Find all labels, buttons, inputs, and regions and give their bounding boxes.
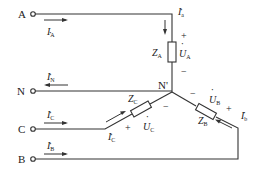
polarity-uc-minus: − [163, 101, 169, 112]
polarity-ub-minus: − [190, 88, 196, 99]
label-zc: ZC [128, 93, 138, 105]
polarity-ua-minus: − [181, 66, 187, 77]
polarity-ub-plus: + [226, 103, 232, 114]
label-ib: · IB [46, 138, 54, 152]
polarity-uc-plus: + [125, 122, 131, 133]
label-ia-phase: · Ia [177, 4, 184, 18]
label-ic-phase: · IC [107, 129, 115, 143]
terminal-label-a: A [18, 8, 26, 20]
label-ia: · IA [46, 26, 55, 38]
label-ub: · UB [209, 84, 220, 106]
arrow-ia-phase-icon [163, 20, 167, 35]
impedance-za [168, 42, 176, 62]
terminal-label-b: B [18, 153, 25, 165]
neutral-node-label: N' [158, 79, 168, 91]
terminal-a [31, 12, 36, 17]
arrow-in-icon [44, 83, 68, 87]
terminal-label-n: N [17, 85, 25, 97]
label-in: · IN [46, 69, 55, 83]
svg-text:IC: IC [107, 131, 115, 143]
label-uc: · UC [143, 111, 154, 133]
polarity-ua-plus: + [181, 30, 187, 41]
arrow-ic-phase-icon [106, 111, 126, 122]
terminal-label-c: C [18, 123, 25, 135]
label-zb: ZB [198, 115, 208, 127]
svg-text:UC: UC [143, 121, 154, 133]
svg-text:UB: UB [209, 94, 220, 106]
terminal-n [31, 89, 36, 94]
arrow-ia-icon [44, 18, 68, 22]
svg-text:Ib: Ib [240, 110, 247, 122]
wire-c-upper [150, 92, 172, 104]
label-za: ZA [152, 47, 163, 59]
circuit-diagram: A N C B [0, 0, 262, 173]
arrow-ic-icon [44, 121, 68, 125]
svg-text:Ia: Ia [177, 6, 184, 18]
svg-text:IB: IB [46, 140, 54, 152]
terminal-c [31, 127, 36, 132]
label-ic: · IC [46, 107, 54, 121]
wire-a [35, 14, 172, 42]
svg-text:IC: IC [46, 109, 54, 121]
label-ib-phase: · Ib [240, 107, 247, 122]
arrow-ib-icon [44, 152, 68, 156]
label-ua: · UA [179, 38, 191, 60]
svg-text:UA: UA [179, 48, 191, 60]
terminal-b [31, 157, 36, 162]
